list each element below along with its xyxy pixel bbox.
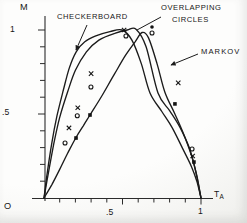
markov-label: MARKOV	[201, 48, 241, 56]
y-tick-label-1: 1	[10, 25, 15, 34]
overlapping-circles-label-line2: CIRCLES	[172, 16, 209, 24]
scatter-line-figure: M 1 .5 O .5 1 TA CHECKERBOARD OVERLAPPIN…	[0, 0, 247, 223]
square-marker	[173, 102, 177, 106]
y-axis-title: M	[20, 3, 28, 12]
markov-curve	[44, 32, 201, 198]
square-marker	[88, 113, 92, 117]
o-marker	[150, 31, 154, 35]
x-marker	[76, 106, 80, 110]
o-marker	[190, 147, 194, 151]
checkerboard-label: CHECKERBOARD	[57, 13, 128, 21]
chart-canvas	[0, 0, 247, 223]
o-marker	[124, 34, 128, 38]
x-axis-title-sub: A	[219, 193, 223, 200]
y-tick-label-0-5: .5	[2, 108, 10, 117]
dot-marker	[150, 25, 154, 29]
x-tick-label-1: 1	[198, 207, 203, 216]
origin-label: O	[4, 202, 11, 211]
x-marker	[67, 126, 71, 130]
x-marker	[176, 81, 180, 85]
o-marker	[75, 114, 79, 118]
overlapping-circles-curve	[44, 28, 201, 198]
x-tick-label-0-5: .5	[106, 208, 114, 217]
checkerboard-leader-arrow	[76, 25, 87, 50]
square-marker	[192, 160, 196, 164]
square-marker	[74, 136, 78, 140]
o-marker	[63, 141, 67, 145]
overlapping-circles-leader-line	[137, 17, 161, 30]
x-axis-title: TA	[214, 190, 224, 200]
checkerboard-curve	[44, 30, 201, 198]
markov-leader-arrow	[171, 54, 198, 65]
x-marker	[89, 71, 93, 75]
overlapping-circles-label-line1: OVERLAPPING	[161, 4, 222, 12]
o-marker	[89, 85, 93, 89]
